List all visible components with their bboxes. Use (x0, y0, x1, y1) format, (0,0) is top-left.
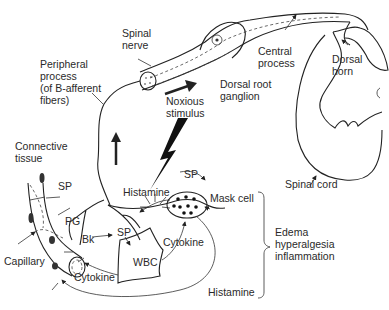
label-histamine-bottom: Histamine (208, 286, 255, 298)
label-noxious-stimulus: Noxious stimulus (166, 95, 205, 119)
label-sp-left: SP (58, 180, 72, 192)
label-dorsal-root-ganglion: Dorsal root ganglion (220, 78, 271, 102)
label-mask-cell: Mask cell (210, 192, 254, 204)
label-histamine-top: Histamine (123, 186, 170, 198)
label-cytokine-bottom: Cytokine (74, 271, 115, 283)
label-dorsal-horn: Dorsal horn (332, 53, 362, 77)
label-spinal-cord: Spinal cord (285, 178, 338, 190)
spinal-cord-outline (296, 27, 388, 186)
label-cytokine-right: Cytokine (163, 236, 204, 248)
label-connective-tissue: Connective tissue (15, 140, 68, 164)
label-bk: Bk (82, 233, 94, 245)
label-sp-center: SP (117, 226, 131, 238)
mast-cell (167, 192, 207, 218)
lightning-bolt-icon (150, 118, 188, 190)
label-wbc: WBC (133, 256, 158, 268)
label-peripheral-process: Peripheral process (of B-afferent fibers… (40, 58, 101, 106)
effects-brace (258, 192, 270, 298)
label-pg: PG (65, 215, 80, 227)
label-central-process: Central process (258, 45, 295, 69)
label-effects: Edema hyperalgesia inflammation (275, 226, 335, 262)
label-spinal-nerve: Spinal nerve (122, 27, 151, 51)
diagram-canvas: Spinal nerve Peripheral process (of B-af… (0, 0, 389, 310)
label-sp-top-right: SP (184, 168, 198, 180)
label-capillary: Capillary (4, 255, 45, 267)
